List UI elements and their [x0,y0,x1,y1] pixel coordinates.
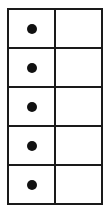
right-cell-empty [56,166,101,203]
right-cell-empty [56,49,101,86]
right-cell-empty [56,127,101,164]
dot-icon [27,102,37,112]
left-cell [9,10,56,47]
left-cell [9,166,56,203]
dot-icon [27,180,37,190]
right-cell-empty [56,10,101,47]
grid-row-5 [9,166,101,203]
left-cell [9,49,56,86]
dot-icon [27,24,37,34]
dot-icon [27,141,37,151]
grid-row-2 [9,49,101,88]
grid-row-3 [9,88,101,127]
right-cell-empty [56,88,101,125]
two-column-grid [7,8,103,205]
grid-row-4 [9,127,101,166]
dot-icon [27,63,37,73]
grid-row-1 [9,10,101,49]
left-cell [9,88,56,125]
left-cell [9,127,56,164]
